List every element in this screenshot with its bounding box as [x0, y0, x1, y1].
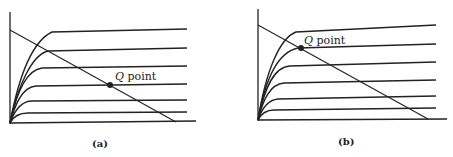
q-point-label: Q point: [304, 34, 346, 47]
characteristic-curve: [258, 108, 436, 120]
panel-b: Q point (b): [258, 9, 447, 147]
characteristic-curve: [10, 66, 187, 123]
x-axis: [258, 119, 447, 120]
characteristic-curve: [10, 29, 187, 123]
panel-a: Q point (a): [10, 12, 196, 149]
load-line-figure: Q point (a) Q point (b): [0, 0, 453, 157]
characteristic-curve: [258, 62, 436, 120]
x-axis: [10, 121, 196, 123]
characteristic-curve: [10, 84, 187, 123]
caption-b: (b): [338, 136, 354, 147]
q-point-marker: [107, 82, 113, 88]
characteristic-curve: [258, 80, 436, 120]
q-point-label: Q point: [115, 70, 157, 83]
caption-a: (a): [92, 138, 108, 149]
